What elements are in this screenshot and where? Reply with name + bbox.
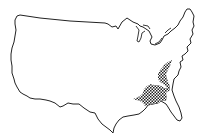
us-map xyxy=(0,0,205,140)
great-lakes-outline xyxy=(136,25,171,44)
highlighted-region-southeast xyxy=(133,60,172,106)
us-outline-map xyxy=(0,0,205,140)
